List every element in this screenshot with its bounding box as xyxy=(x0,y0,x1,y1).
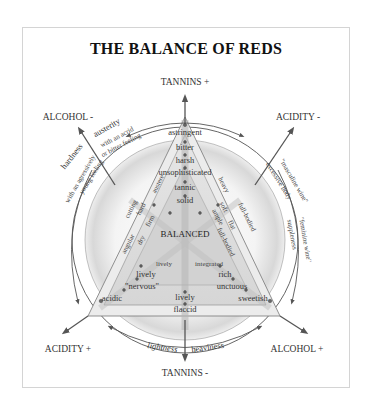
term-lively-inner: lively xyxy=(156,260,172,268)
term-acidic: acidic xyxy=(102,293,123,303)
term-astringent: astringent xyxy=(168,127,202,137)
arc-labels-bottom: lightness heaviness xyxy=(147,340,225,355)
term-rich: rich xyxy=(218,269,232,279)
arc-hardness: hardness xyxy=(59,141,85,171)
balance-diagram: TANNINS + TANNINS - ALCOHOL - ACIDITY - … xyxy=(0,0,366,411)
term-sweetish: sweetish xyxy=(238,293,268,303)
label-acidity-plus: ACIDITY + xyxy=(45,344,91,354)
term-lively-left: lively xyxy=(136,269,156,279)
term-unctuous: unctuous xyxy=(217,281,248,291)
term-balanced: BALANCED xyxy=(161,229,210,239)
label-tannins-minus: TANNINS - xyxy=(162,368,208,378)
label-tannins-plus: TANNINS + xyxy=(161,77,210,87)
label-acidity-minus: ACIDITY - xyxy=(276,112,320,122)
label-alcohol-plus: ALCOHOL + xyxy=(271,344,324,354)
label-alcohol-minus: ALCOHOL - xyxy=(43,112,94,122)
arc-feminine: "feminine wine" xyxy=(297,216,313,263)
arc-heaviness: heaviness xyxy=(191,340,225,355)
term-nervous: "nervous" xyxy=(125,281,159,291)
arc-lightness: lightness xyxy=(147,340,179,354)
